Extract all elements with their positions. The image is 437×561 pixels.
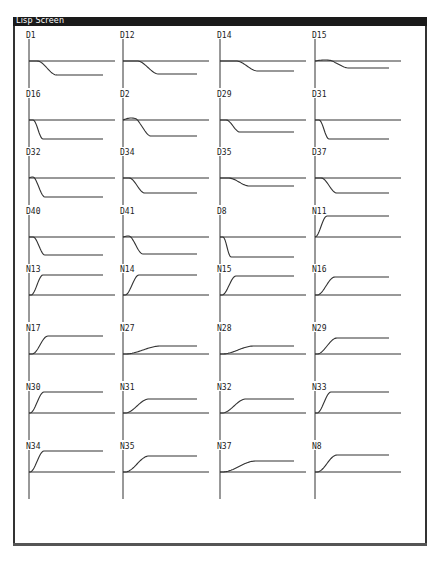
- response-curve: [220, 61, 294, 71]
- response-curve: [29, 451, 103, 472]
- response-curve: [220, 461, 294, 472]
- plot-panel-d29: D29: [217, 90, 306, 147]
- plot-panel-n30: N30: [26, 383, 115, 440]
- plot-panel-n13: N13: [26, 265, 115, 322]
- response-curve: [315, 120, 389, 139]
- plot-label: N35: [120, 442, 135, 451]
- plot-label: D2: [120, 90, 130, 99]
- response-curve: [123, 346, 197, 354]
- response-curve: [315, 392, 389, 413]
- plot-label: D41: [120, 207, 135, 216]
- plot-label: N27: [120, 324, 135, 333]
- response-curve: [220, 120, 294, 132]
- plot-label: N33: [312, 383, 327, 392]
- plot-label: D1: [26, 31, 36, 40]
- plot-label: N17: [26, 324, 41, 333]
- plot-label: D29: [217, 90, 232, 99]
- response-curve: [29, 275, 103, 295]
- plot-label: N16: [312, 265, 327, 274]
- plot-panel-n16: N16: [312, 265, 401, 322]
- response-curve: [123, 399, 197, 413]
- plot-grid: D1D12D14D15D16D2D29D31D32D34D35D37D40D41…: [0, 0, 437, 561]
- response-curve: [220, 399, 294, 413]
- plot-label: N32: [217, 383, 232, 392]
- plot-panel-d16: D16: [26, 90, 115, 147]
- plot-panel-d37: D37: [312, 148, 401, 205]
- response-curve: [315, 338, 389, 354]
- response-curve: [123, 456, 197, 472]
- plot-label: D8: [217, 207, 227, 216]
- response-curve: [29, 61, 103, 75]
- plot-label: D40: [26, 207, 41, 216]
- plot-label: N14: [120, 265, 135, 274]
- plot-label: N29: [312, 324, 327, 333]
- response-curve: [29, 336, 103, 354]
- plot-panel-n11: N11: [312, 207, 401, 264]
- plot-label: D16: [26, 90, 41, 99]
- plot-panel-n8: N8: [312, 442, 401, 499]
- response-curve: [123, 275, 197, 295]
- response-curve: [123, 118, 197, 136]
- plot-label: N15: [217, 265, 232, 274]
- plot-label: D37: [312, 148, 327, 157]
- plot-panel-n31: N31: [120, 383, 209, 440]
- plot-label: N31: [120, 383, 135, 392]
- plot-panel-d40: D40: [26, 207, 115, 264]
- response-curve: [123, 178, 197, 193]
- plot-panel-n37: N37: [217, 442, 306, 499]
- response-curve: [315, 277, 389, 295]
- plot-panel-d15: D15: [312, 31, 401, 88]
- plot-label: N28: [217, 324, 232, 333]
- plot-label: N34: [26, 442, 41, 451]
- plot-label: N13: [26, 265, 41, 274]
- response-curve: [29, 237, 103, 255]
- plot-panel-d31: D31: [312, 90, 401, 147]
- response-curve: [29, 120, 103, 139]
- plot-panel-n15: N15: [217, 265, 306, 322]
- response-curve: [315, 216, 389, 237]
- response-curve: [315, 455, 389, 472]
- plot-panel-n34: N34: [26, 442, 115, 499]
- plot-panel-d32: D32: [26, 148, 115, 205]
- plot-label: D15: [312, 31, 327, 40]
- plot-panel-d8: D8: [217, 207, 306, 264]
- plot-panel-n17: N17: [26, 324, 115, 381]
- response-curve: [220, 178, 294, 186]
- plot-panel-n28: N28: [217, 324, 306, 381]
- response-curve: [29, 177, 103, 197]
- plot-panel-d14: D14: [217, 31, 306, 88]
- plot-panel-n35: N35: [120, 442, 209, 499]
- plot-panel-n29: N29: [312, 324, 401, 381]
- response-curve: [123, 61, 197, 74]
- plot-label: D14: [217, 31, 232, 40]
- plot-panel-d41: D41: [120, 207, 209, 264]
- plot-panel-d35: D35: [217, 148, 306, 205]
- plot-label: N37: [217, 442, 232, 451]
- response-curve: [29, 392, 103, 413]
- plot-label: N30: [26, 383, 41, 392]
- plot-panel-d34: D34: [120, 148, 209, 205]
- plot-panel-d12: D12: [120, 31, 209, 88]
- response-curve: [220, 276, 294, 295]
- plot-label: D35: [217, 148, 232, 157]
- plot-label: D12: [120, 31, 135, 40]
- plot-label: D34: [120, 148, 135, 157]
- response-curve: [315, 178, 389, 193]
- plot-panel-n27: N27: [120, 324, 209, 381]
- plot-label: D31: [312, 90, 327, 99]
- response-curve: [220, 346, 294, 354]
- plot-label: N11: [312, 207, 327, 216]
- plot-panel-n14: N14: [120, 265, 209, 322]
- plot-label: N8: [312, 442, 322, 451]
- response-curve: [220, 237, 294, 257]
- plot-panel-d2: D2: [120, 90, 209, 147]
- plot-panel-n32: N32: [217, 383, 306, 440]
- plot-panel-d1: D1: [26, 31, 115, 88]
- response-curve: [123, 236, 197, 254]
- plot-label: D32: [26, 148, 41, 157]
- plot-panel-n33: N33: [312, 383, 401, 440]
